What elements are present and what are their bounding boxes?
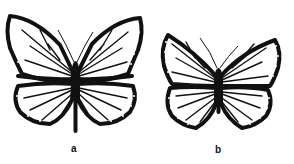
butterfly-b bbox=[163, 35, 280, 128]
forewing-left bbox=[163, 35, 216, 86]
abdomen-a bbox=[74, 78, 78, 133]
forewing-right bbox=[221, 40, 279, 86]
thorax-a bbox=[72, 61, 79, 79]
hindwing-right bbox=[221, 87, 271, 128]
butterfly-a-illustration bbox=[0, 0, 294, 164]
thorax-b bbox=[215, 68, 223, 88]
butterfly-a bbox=[8, 16, 142, 133]
forewing-right bbox=[78, 18, 142, 82]
panel-label-b: b bbox=[215, 144, 221, 155]
abdomen-b bbox=[217, 86, 221, 114]
forewing-left bbox=[8, 16, 74, 82]
butterfly-figure: a b bbox=[0, 0, 294, 164]
panel-label-a: a bbox=[71, 143, 77, 154]
